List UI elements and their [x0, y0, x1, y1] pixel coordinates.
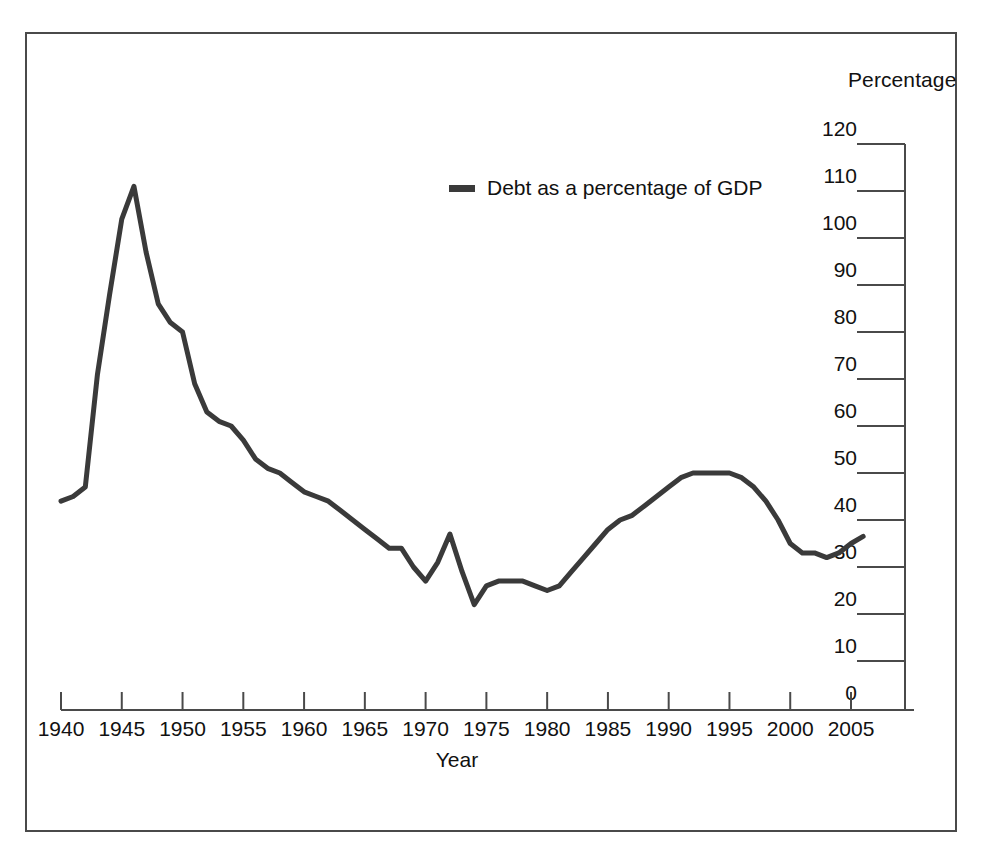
x-axis-tick-label: 1995 [694, 717, 764, 741]
y-axis-tick-label: 20 [797, 587, 857, 611]
y-axis-tick-label: 90 [797, 258, 857, 282]
x-axis-tick-label: 1965 [330, 717, 400, 741]
legend-label: Debt as a percentage of GDP [487, 176, 763, 200]
x-axis-title: Year [0, 748, 914, 772]
x-axis-tick-label: 1975 [451, 717, 521, 741]
x-axis-tick-label: 1990 [634, 717, 704, 741]
y-axis-tick-label: 80 [797, 305, 857, 329]
y-axis-tick-label: 100 [797, 211, 857, 235]
y-axis-tick-label: 0 [797, 681, 857, 705]
x-axis-tick-label: 1945 [87, 717, 157, 741]
x-axis-tick-label: 2000 [755, 717, 825, 741]
y-axis-tick-label: 10 [797, 634, 857, 658]
chart-frame-border [25, 32, 957, 832]
y-axis-unit-label: Percentage [848, 68, 956, 92]
x-axis-tick-label: 1980 [512, 717, 582, 741]
y-axis-tick-label: 110 [797, 164, 857, 188]
y-axis-tick-label: 30 [797, 540, 857, 564]
y-axis-tick-label: 70 [797, 352, 857, 376]
y-axis-tick-label: 40 [797, 493, 857, 517]
x-axis-tick-label: 1940 [26, 717, 96, 741]
y-axis-tick-label: 60 [797, 399, 857, 423]
x-axis-tick-label: 2005 [816, 717, 886, 741]
x-axis-tick-label: 1950 [148, 717, 218, 741]
figure-root: Percentage Debt as a percentage of GDP 0… [0, 0, 982, 853]
y-axis-tick-label: 50 [797, 446, 857, 470]
chart-legend: Debt as a percentage of GDP [449, 176, 763, 200]
x-axis-tick-label: 1960 [269, 717, 339, 741]
x-axis-tick-label: 1955 [208, 717, 278, 741]
x-axis-tick-label: 1985 [573, 717, 643, 741]
x-axis-tick-label: 1970 [391, 717, 461, 741]
y-axis-tick-label: 120 [797, 117, 857, 141]
legend-line-swatch-icon [449, 185, 475, 192]
